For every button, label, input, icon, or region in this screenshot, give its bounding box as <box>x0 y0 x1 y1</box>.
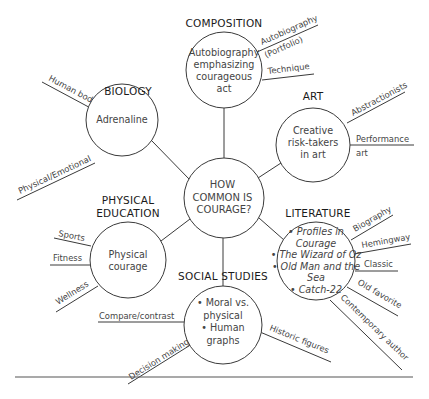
art-heading: ART <box>303 90 324 102</box>
literature-branch: Hemingway <box>354 232 411 254</box>
social-studies-content-line: • Human <box>201 322 244 333</box>
node-biology: BIOLOGYAdrenaline <box>86 84 158 156</box>
social-studies-content-line: • Moral vs. <box>197 297 249 308</box>
physical-education-branch: Wellness <box>54 279 98 312</box>
composition-branch: Technique <box>262 61 314 80</box>
center-line: HOW <box>210 179 235 190</box>
center-line: COMMON IS <box>192 192 252 203</box>
physical-education-branch: Sports <box>54 228 91 246</box>
biology-branch: Physical/Emotional <box>17 153 95 200</box>
literature-branch: Classic <box>355 259 398 271</box>
art-branch: art <box>356 148 369 158</box>
composition-content-line: Autobiography <box>189 47 260 58</box>
branch-label: Decision making <box>127 336 191 381</box>
art-content-line: in art <box>300 149 326 160</box>
branch-label: Fitness <box>53 253 82 263</box>
composition-content-line: emphasizing <box>194 59 255 70</box>
social-studies-content-line: graphs <box>206 335 239 346</box>
branch-label: Performance <box>356 134 409 144</box>
branch-label: Technique <box>266 61 310 76</box>
art-branch: Performance <box>350 134 414 145</box>
spoke-line <box>259 218 284 240</box>
literature-content-line: Sea <box>307 272 325 283</box>
central-question: HOW COMMON IS COURAGE? <box>184 158 264 238</box>
art-content-line: risk-takers <box>288 137 338 148</box>
social-studies-heading: SOCIAL STUDIES <box>178 270 268 282</box>
spoke-line <box>258 163 281 178</box>
physical-education-circle <box>90 222 166 298</box>
composition-content-line: act <box>217 83 232 94</box>
physical-education-heading-line2: EDUCATION <box>96 207 160 219</box>
node-physical-education: PHYSICALEDUCATIONPhysicalcourage <box>90 194 166 298</box>
literature-heading: LITERATURE <box>285 207 350 219</box>
branch-label: Physical/Emotional <box>17 153 93 195</box>
social-studies-branch: Historic figures <box>260 323 331 362</box>
literature-content-line: • Catch-22 <box>290 284 342 295</box>
physical-education-heading: PHYSICAL <box>102 194 154 206</box>
node-literature: LITERATURE• Profiles inCourage• The Wiza… <box>271 207 363 300</box>
node-art: ARTCreativerisk-takersin art <box>276 90 350 182</box>
branch-label: Sports <box>58 228 86 243</box>
biology-heading: BIOLOGY <box>104 85 152 97</box>
biology-content-line: Adrenaline <box>96 114 147 125</box>
spoke-line <box>152 141 190 180</box>
branch-label: Classic <box>364 259 393 269</box>
node-composition: COMPOSITIONAutobiographyemphasizingcoura… <box>186 17 263 108</box>
art-content-line: Creative <box>293 125 333 136</box>
physical-education-content-line: courage <box>108 261 147 272</box>
branch-label: Compare/contrast <box>99 311 175 321</box>
composition-content-line: courageous <box>196 71 252 82</box>
branch-label: Hemingway <box>361 232 412 250</box>
physical-education-branch: Fitness <box>50 253 90 265</box>
branch-label: art <box>356 148 369 158</box>
branch-label: Abstractionists <box>349 80 409 118</box>
literature-content-line: • Profiles in <box>288 226 344 237</box>
composition-circle <box>186 32 262 108</box>
center-line: COURAGE? <box>197 204 252 215</box>
literature-content-line: • The Wizard of Oz <box>271 249 363 260</box>
social-studies-branch: Compare/contrast <box>98 311 184 322</box>
art-branch: Abstractionists <box>347 80 409 123</box>
literature-content-line: Courage <box>296 238 337 249</box>
physical-education-content-line: Physical <box>108 249 147 260</box>
composition-heading: COMPOSITION <box>186 17 263 29</box>
literature-content-line: • Old Man and the <box>272 261 360 272</box>
spoke-line <box>161 219 190 241</box>
social-studies-content-line: physical <box>203 310 242 321</box>
courage-concept-map: Autobiography(Portfolio)TechniqueHuman b… <box>0 0 429 399</box>
